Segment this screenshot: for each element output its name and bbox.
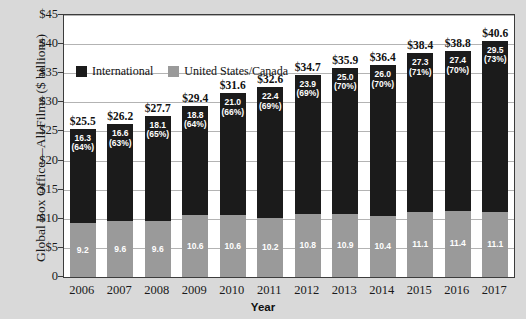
y-tick-mark — [58, 247, 63, 248]
bar-segment-international[interactable] — [482, 41, 508, 213]
bar-segment-domestic[interactable] — [482, 212, 508, 277]
bar-stack[interactable]: 16.3(64%)9.2$25.5 — [70, 129, 96, 277]
x-tick-label: 2017 — [471, 283, 517, 298]
y-tick-label: $30 — [14, 94, 58, 109]
y-tick-mark — [58, 43, 63, 44]
bar-segment-domestic[interactable] — [407, 212, 433, 277]
bar-segment-international[interactable] — [257, 87, 283, 217]
bar-segment-international[interactable] — [370, 65, 396, 216]
y-tick-label: $35 — [14, 65, 58, 80]
bar-segment-international[interactable] — [107, 124, 133, 221]
y-tick-mark — [58, 130, 63, 131]
y-tick-mark — [58, 189, 63, 190]
bar-segment-domestic[interactable] — [145, 221, 171, 277]
bar-segment-domestic[interactable] — [257, 218, 283, 277]
legend-item[interactable]: United States/Canada — [168, 64, 288, 79]
bar-total-label: $38.8 — [438, 37, 478, 49]
bar-total-label: $26.2 — [100, 110, 140, 122]
bar-stack[interactable]: 16.6(63%)9.6$26.2 — [107, 124, 133, 277]
bar-total-label: $36.4 — [363, 51, 403, 63]
y-tick-label: $5 — [14, 239, 58, 254]
chart-legend: InternationalUnited States/Canada — [76, 64, 288, 79]
y-tick-label: $15 — [14, 181, 58, 196]
y-tick-mark — [58, 14, 63, 15]
bar-segment-international[interactable] — [332, 68, 358, 214]
legend-label: United States/Canada — [184, 64, 288, 79]
bar-total-label: $25.5 — [63, 115, 103, 127]
bar-total-label: $31.6 — [213, 79, 253, 91]
y-tick-mark — [58, 218, 63, 219]
bar-stack[interactable]: 22.4(69%)10.2$32.6 — [257, 87, 283, 277]
bar-total-label: $29.4 — [175, 92, 215, 104]
bar-stack[interactable]: 26.0(70%)10.4$36.4 — [370, 65, 396, 277]
bar-segment-domestic[interactable] — [220, 215, 246, 277]
legend-swatch-icon — [76, 66, 87, 77]
bar-total-label: $34.7 — [288, 61, 328, 73]
plot-area: 16.3(64%)9.2$25.516.6(63%)9.6$26.218.1(6… — [63, 14, 515, 278]
bar-segment-international[interactable] — [220, 93, 246, 215]
y-tick-label: $40 — [14, 36, 58, 51]
bar-segment-international[interactable] — [145, 116, 171, 221]
y-tick-label: $25 — [14, 123, 58, 138]
bar-stack[interactable]: 27.3(71%)11.1$38.4 — [407, 53, 433, 277]
bar-stack[interactable]: 27.4(70%)11.4$38.8 — [445, 51, 471, 277]
bar-segment-domestic[interactable] — [182, 215, 208, 277]
bar-segment-international[interactable] — [295, 75, 321, 214]
y-tick-label: $45 — [14, 7, 58, 22]
bar-segment-international[interactable] — [445, 51, 471, 211]
bar-segment-international[interactable] — [70, 129, 96, 224]
bar-stack[interactable]: 25.0(70%)10.9$35.9 — [332, 68, 358, 277]
y-tick-label: 0 — [14, 269, 58, 284]
bar-segment-domestic[interactable] — [107, 221, 133, 277]
bar-segment-international[interactable] — [407, 53, 433, 212]
bar-stack[interactable]: 18.8(64%)10.6$29.4 — [182, 106, 208, 277]
y-tick-mark — [58, 101, 63, 102]
bar-stack[interactable]: 23.9(69%)10.8$34.7 — [295, 75, 321, 277]
bar-total-label: $38.4 — [400, 39, 440, 51]
bar-segment-domestic[interactable] — [295, 214, 321, 277]
y-tick-label: $10 — [14, 210, 58, 225]
bar-total-label: $40.6 — [475, 27, 515, 39]
bar-segment-domestic[interactable] — [370, 216, 396, 277]
bar-segment-international[interactable] — [182, 106, 208, 215]
bar-stack[interactable]: 18.1(65%)9.6$27.7 — [145, 116, 171, 277]
legend-swatch-icon — [168, 66, 179, 77]
gridline — [64, 15, 514, 16]
y-tick-mark — [58, 72, 63, 73]
x-axis-title: Year — [0, 301, 526, 313]
legend-item[interactable]: International — [76, 64, 153, 79]
bar-stack[interactable]: 29.5(73%)11.1$40.6 — [482, 41, 508, 277]
bar-stack[interactable]: 21.0(66%)10.6$31.6 — [220, 93, 246, 277]
bar-total-label: $27.7 — [138, 102, 178, 114]
y-tick-label: $20 — [14, 152, 58, 167]
bar-segment-domestic[interactable] — [70, 223, 96, 277]
y-tick-mark — [58, 160, 63, 161]
bar-segment-domestic[interactable] — [445, 211, 471, 277]
bar-segment-domestic[interactable] — [332, 214, 358, 277]
bar-total-label: $35.9 — [325, 54, 365, 66]
chart-figure: Global Box Office—All Films ($ billions)… — [0, 0, 526, 319]
y-tick-mark — [58, 276, 63, 277]
legend-label: International — [92, 64, 153, 79]
